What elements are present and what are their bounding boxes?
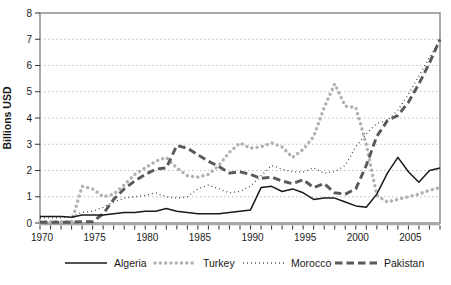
chart-canvas: 0123456781970197519801985199019952000200… [0, 0, 451, 285]
plot-frame [39, 13, 440, 224]
y-tick-label: 7 [26, 34, 32, 45]
series-line-turkey [40, 84, 440, 222]
y-tick-label: 5 [26, 86, 32, 97]
y-tick-label: 2 [26, 165, 32, 176]
legend-label-algeria: Algeria [114, 257, 147, 269]
legend-label-morocco: Morocco [291, 257, 331, 269]
y-tick-label: 8 [26, 8, 32, 19]
y-tick-label: 3 [26, 139, 32, 150]
legend-label-turkey: Turkey [203, 257, 235, 269]
data-series [40, 39, 440, 222]
legend-label-pakistan: Pakistan [384, 257, 424, 269]
x-tick-label: 1985 [189, 232, 212, 243]
y-axis-title: Billions USD [1, 86, 13, 149]
legend-item-morocco: Morocco [243, 257, 331, 269]
series-line-algeria [40, 157, 440, 217]
x-tick-label: 1980 [136, 232, 159, 243]
series-line-morocco [40, 39, 440, 218]
x-tick-label: 1995 [294, 232, 317, 243]
y-tick-label: 0 [26, 218, 32, 229]
x-tick-label: 2005 [399, 232, 422, 243]
legend-item-pakistan: Pakistan [335, 257, 424, 269]
y-tick-label: 4 [26, 113, 32, 124]
y-tick-label: 1 [26, 191, 32, 202]
line-chart-figure: 0123456781970197519801985199019952000200… [0, 0, 451, 285]
x-tick-label: 2000 [347, 232, 370, 243]
y-tick-label: 6 [26, 60, 32, 71]
legend-item-algeria: Algeria [65, 257, 147, 269]
x-tick-label: 1990 [241, 232, 264, 243]
chart-legend: AlgeriaTurkeyMoroccoPakistan [65, 257, 424, 269]
x-tick-label: 1975 [84, 232, 107, 243]
axis-ticks-and-labels: 0123456781970197519801985199019952000200… [26, 8, 440, 244]
legend-item-turkey: Turkey [155, 257, 235, 269]
x-tick-label: 1970 [31, 232, 54, 243]
